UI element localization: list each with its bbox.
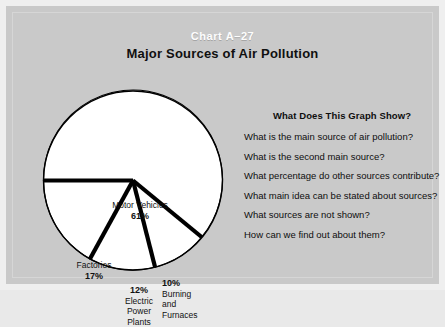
chart-card-inner: Chart A–27 Major Sources of Air Pollutio… xyxy=(12,12,433,278)
chart-number-label: Chart A–27 xyxy=(12,30,433,42)
page-title: Major Sources of Air Pollution xyxy=(12,46,433,61)
pie-chart: Motor Vehicles 61% Factories 17% 12% Ele… xyxy=(30,82,240,282)
pie-label-motor-vehicles-percent: 61% xyxy=(131,211,149,221)
pie-label-factories: Factories 17% xyxy=(63,260,125,281)
questions-heading: What Does This Graph Show? xyxy=(244,110,440,121)
pie-label-electric-power-plants-line1: Electric xyxy=(125,296,153,306)
pie-label-burning-and-furnaces: 10% Burning and Furnaces xyxy=(162,278,214,320)
question-item: What is the main source of air pollution… xyxy=(244,131,440,144)
pie-label-motor-vehicles-name: Motor Vehicles xyxy=(112,200,168,210)
pie-label-electric-power-plants-percent: 12% xyxy=(130,285,148,295)
question-item: What percentage do other sources contrib… xyxy=(244,170,440,183)
pie-label-electric-power-plants-line2: Power xyxy=(127,306,151,316)
pie-label-factories-name: Factories xyxy=(77,260,112,270)
pie-label-burning-and-furnaces-line2: and xyxy=(162,299,176,309)
pie-label-burning-and-furnaces-line1: Burning xyxy=(162,289,191,299)
question-item: What main idea can be stated about sourc… xyxy=(244,190,440,203)
pie-label-motor-vehicles: Motor Vehicles 61% xyxy=(86,200,194,221)
question-item: What sources are not shown? xyxy=(244,209,440,222)
pie-label-factories-percent: 17% xyxy=(85,271,103,281)
pie-label-electric-power-plants-line3: Plants xyxy=(127,317,151,327)
questions-panel: What Does This Graph Show? What is the m… xyxy=(244,110,440,242)
pie-label-burning-and-furnaces-line3: Furnaces xyxy=(162,310,197,320)
pie-label-burning-and-furnaces-percent: 10% xyxy=(162,278,180,288)
pie-chart-svg xyxy=(30,82,240,282)
pie-label-electric-power-plants: 12% Electric Power Plants xyxy=(116,285,162,327)
question-item: How can we find out about them? xyxy=(244,229,440,242)
question-item: What is the second main source? xyxy=(244,151,440,164)
